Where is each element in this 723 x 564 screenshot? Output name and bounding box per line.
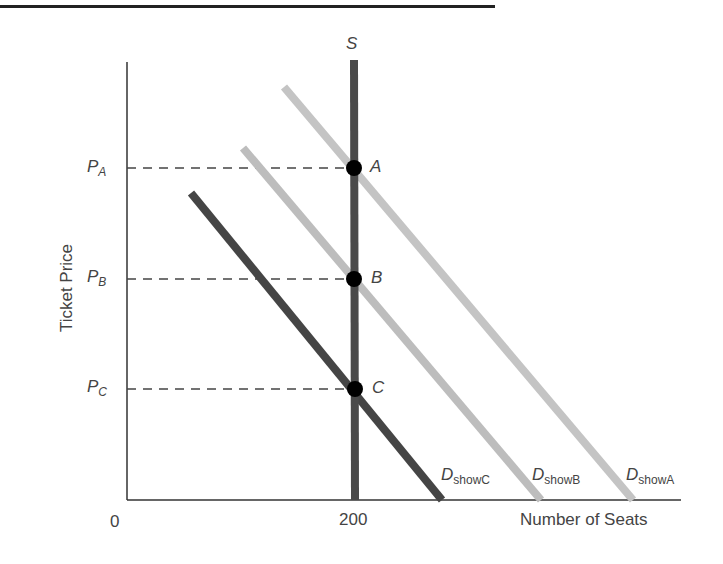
x-axis-label: Number of Seats [520,510,648,530]
price-label-a: PA [87,157,106,179]
point-b [346,271,362,287]
demand-show-a-label: DshowA [626,465,674,487]
origin-label: 0 [110,512,119,532]
supply-label: S [346,34,357,54]
point-label-b: B [371,268,382,288]
point-label-a: A [370,157,381,177]
price-label-c: PC [87,377,107,399]
demand-show-a-line [284,87,633,500]
demand-show-c-label: DshowC [441,465,490,487]
point-a [346,160,362,176]
point-label-c: C [372,378,384,398]
demand-show-b-line [243,148,541,500]
y-axis-label: Ticket Price [57,218,77,358]
point-c [347,381,363,397]
price-label-b: PB [87,267,106,289]
x-tick-200: 200 [339,510,367,530]
diagram-canvas [0,0,723,564]
demand-show-b-label: DshowB [532,465,580,487]
